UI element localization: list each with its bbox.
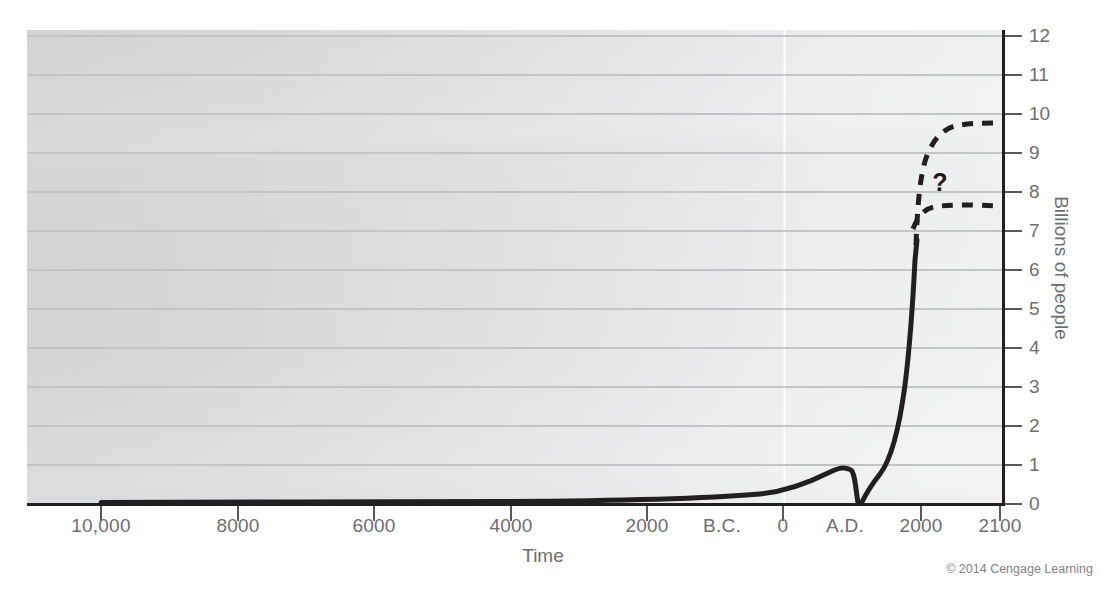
uncertainty-question-mark: ? — [932, 168, 947, 197]
ytick-label-6: 6 — [1029, 259, 1040, 281]
series-high-projection-line — [916, 123, 1002, 245]
ytick-label-4: 4 — [1029, 337, 1040, 359]
series-low-projection-line — [913, 205, 1002, 229]
ytick-label-9: 9 — [1029, 142, 1040, 164]
xtick-label-2000-ad: 2000 — [899, 515, 942, 537]
xtick-label-ad-era: A.D. — [826, 515, 864, 537]
ytick-label-7: 7 — [1029, 220, 1040, 242]
xtick-label-bc-era: B.C. — [703, 515, 741, 537]
population-growth-chart: 10,000 8000 6000 4000 2000 B.C. 0 A.D. 2… — [0, 0, 1101, 600]
chart-canvas — [0, 0, 1101, 600]
xtick-label-6000: 6000 — [352, 515, 395, 537]
y-axis-title: Billions of people — [1050, 196, 1072, 340]
axis-lines — [27, 30, 1004, 506]
ytick-label-5: 5 — [1029, 298, 1040, 320]
xtick-label-8000: 8000 — [216, 515, 259, 537]
x-axis-title: Time — [522, 545, 564, 567]
ytick-label-8: 8 — [1029, 181, 1040, 203]
ytick-label-0: 0 — [1029, 493, 1040, 515]
ytick-label-12: 12 — [1029, 25, 1050, 47]
xtick-label-zero: 0 — [778, 515, 789, 537]
series-historical-line — [101, 240, 917, 504]
ytick-label-2: 2 — [1029, 415, 1040, 437]
xtick-label-2000-bc: 2000 — [625, 515, 668, 537]
ytick-label-11: 11 — [1029, 64, 1049, 86]
xtick-label-4000: 4000 — [489, 515, 532, 537]
ytick-label-10: 10 — [1029, 103, 1050, 125]
gridlines — [27, 36, 1003, 465]
ytick-label-1: 1 — [1029, 454, 1040, 476]
ytick-label-3: 3 — [1029, 376, 1040, 398]
y-axis-ticks — [1005, 36, 1022, 504]
xtick-label-2100: 2100 — [978, 515, 1021, 537]
xtick-label-10000: 10,000 — [71, 515, 130, 537]
copyright-credit: © 2014 Cengage Learning — [946, 562, 1093, 576]
